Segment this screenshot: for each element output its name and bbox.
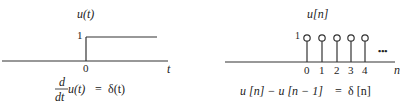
n-tick-2: 2	[334, 64, 340, 76]
stem-3	[348, 35, 354, 62]
n-tick-1: 1	[319, 64, 325, 76]
stem-4	[362, 35, 368, 62]
eq-diff-rhs: δ [n]	[348, 84, 371, 98]
discrete-step-plot: 1 0 1 2 3 4 ••• n u[n]	[225, 7, 400, 77]
t-axis-label: t	[167, 62, 171, 76]
left-y-tick-1: 1	[77, 29, 83, 41]
stem-2	[334, 35, 340, 62]
eq-equals: =	[95, 82, 102, 96]
continuous-step-plot: 1 0 t u(t)	[2, 7, 171, 76]
n-tick-4: 4	[362, 64, 368, 76]
stem-0	[304, 35, 310, 62]
n-axis-label: n	[394, 63, 400, 77]
left-x-tick-0: 0	[83, 62, 89, 74]
right-y-tick-1: 1	[295, 30, 300, 41]
continuation-ellipsis: •••	[378, 46, 387, 56]
eq-diff-equals: =	[335, 84, 342, 98]
right-plot-title: u[n]	[307, 7, 329, 21]
eq-lhs-tail: u(t)	[68, 82, 85, 96]
eq-denominator: dt	[55, 90, 65, 104]
stem-1	[319, 35, 325, 62]
eq-rhs: δ(t)	[108, 82, 125, 96]
eq-numerator: d	[59, 75, 66, 89]
diagram-canvas: 1 0 t u(t) d dt u(t) = δ(t)	[0, 0, 419, 111]
n-tick-3: 3	[348, 64, 354, 76]
derivative-equation: d dt u(t) = δ(t)	[55, 75, 125, 104]
difference-equation: u [n] − u [n − 1] = δ [n]	[240, 84, 371, 98]
left-plot-title: u(t)	[77, 7, 94, 21]
eq-diff-lhs: u [n] − u [n − 1]	[240, 84, 323, 98]
n-tick-0: 0	[304, 64, 310, 76]
